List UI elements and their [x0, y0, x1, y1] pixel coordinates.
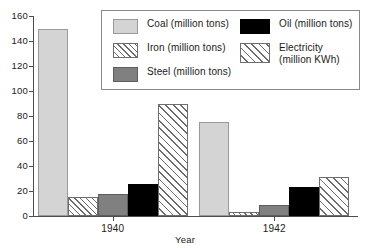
bar-electricity-1942	[319, 177, 349, 216]
legend-label-oil: Oil (million tons)	[279, 18, 352, 30]
x-axis-title: Year	[0, 235, 370, 245]
legend-label-electricity: Electricity (million KWh)	[279, 42, 340, 65]
bar-iron-1940	[68, 197, 98, 216]
bar-coal-1942	[199, 122, 229, 216]
bar-iron-1942	[229, 212, 259, 216]
x-axis-group-tick	[274, 216, 275, 221]
legend-column-left: Coal (million tons) Iron (million tons) …	[113, 18, 238, 90]
legend-item-oil: Oil (million tons)	[240, 18, 358, 35]
legend-label-coal: Coal (million tons)	[147, 18, 229, 30]
bar-chart: 020406080100120140160 19401942 Year Coal…	[0, 0, 370, 248]
legend-item-coal: Coal (million tons)	[113, 18, 238, 35]
bar-electricity-1940	[158, 104, 188, 217]
chart-legend: Coal (million tons) Iron (million tons) …	[101, 10, 360, 90]
legend-item-electricity: Electricity (million KWh)	[240, 42, 358, 66]
bar-oil-1940	[128, 184, 158, 217]
bar-steel-1942	[259, 205, 289, 216]
legend-label-steel: Steel (million tons)	[147, 66, 231, 78]
bar-oil-1942	[289, 187, 319, 216]
bar-steel-1940	[98, 194, 128, 217]
legend-label-iron: Iron (million tons)	[147, 42, 226, 54]
legend-column-right: Oil (million tons) Electricity (million …	[240, 18, 358, 68]
x-axis-group-tick	[113, 216, 114, 221]
legend-item-steel: Steel (million tons)	[113, 66, 238, 83]
legend-swatch-coal-icon	[113, 19, 138, 34]
legend-item-iron: Iron (million tons)	[113, 42, 238, 59]
legend-swatch-steel-icon	[113, 67, 138, 82]
legend-swatch-iron-icon	[113, 43, 138, 58]
legend-swatch-electricity-icon	[240, 43, 270, 63]
x-axis-group-label-1940: 1940	[83, 223, 143, 234]
legend-swatch-oil-icon	[240, 19, 270, 34]
bar-coal-1940	[38, 29, 68, 217]
x-axis-group-label-1942: 1942	[244, 223, 304, 234]
